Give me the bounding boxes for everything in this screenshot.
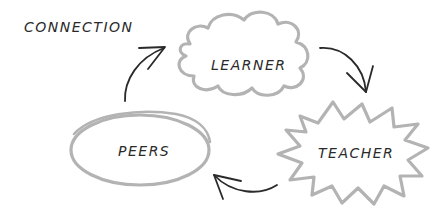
node-label-teacher: TEACHER <box>318 145 394 161</box>
connection-diagram: CONNECTION LEARNER TEACHER PEERS <box>0 0 445 211</box>
node-teacher: TEACHER <box>278 102 428 204</box>
node-learner: LEARNER <box>179 12 308 95</box>
cloud-shape <box>179 12 308 95</box>
node-label-peers: PEERS <box>118 143 170 159</box>
arrow-learner-to-teacher <box>320 48 373 92</box>
diagram-title: CONNECTION <box>24 19 134 35</box>
arrow-teacher-to-peers <box>214 175 277 199</box>
node-label-learner: LEARNER <box>211 57 287 73</box>
arrow-peers-to-learner <box>125 47 165 101</box>
node-peers: PEERS <box>71 112 210 185</box>
